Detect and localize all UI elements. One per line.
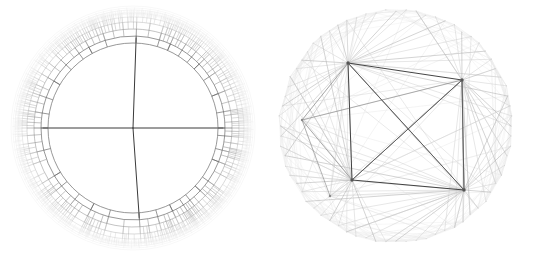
graph-node-hub[interactable] xyxy=(346,61,349,64)
graph-node-perimeter[interactable] xyxy=(491,59,492,60)
graph-node-perimeter[interactable] xyxy=(306,201,307,202)
graph-node-perimeter[interactable] xyxy=(307,51,308,52)
graph-node-perimeter[interactable] xyxy=(504,165,505,166)
graph-node-perimeter[interactable] xyxy=(285,155,286,156)
dendrogram-arc xyxy=(79,211,88,216)
graph-node-perimeter[interactable] xyxy=(490,192,491,193)
graph-node-perimeter[interactable] xyxy=(302,191,303,192)
dendrogram-arc xyxy=(200,46,206,51)
graph-node-perimeter[interactable] xyxy=(395,240,396,241)
graph-node-perimeter[interactable] xyxy=(495,68,496,69)
graph-node-perimeter[interactable] xyxy=(290,175,291,176)
graph-node-perimeter[interactable] xyxy=(509,105,510,106)
graph-node-secondary[interactable] xyxy=(329,195,331,197)
graph-node-perimeter[interactable] xyxy=(470,214,471,215)
graph-node-perimeter[interactable] xyxy=(296,183,297,184)
graph-node-perimeter[interactable] xyxy=(485,201,486,202)
graph-node-perimeter[interactable] xyxy=(507,96,508,97)
graph-node-perimeter[interactable] xyxy=(425,15,426,16)
graph-node-perimeter[interactable] xyxy=(320,36,321,37)
graph-node-perimeter[interactable] xyxy=(478,42,479,43)
dendrogram-spoke xyxy=(217,192,221,195)
graph-node-hub[interactable] xyxy=(462,188,465,191)
graph-node-perimeter[interactable] xyxy=(510,146,511,147)
graph-node-perimeter[interactable] xyxy=(285,166,286,167)
dendrogram-spoke xyxy=(92,38,95,44)
graph-node-perimeter[interactable] xyxy=(500,77,501,78)
graph-node-perimeter[interactable] xyxy=(485,51,486,52)
graph-node-perimeter[interactable] xyxy=(376,13,377,14)
dendrogram-arc xyxy=(32,71,33,73)
graph-node-perimeter[interactable] xyxy=(365,13,366,14)
graph-node-perimeter[interactable] xyxy=(454,227,455,228)
graph-node-perimeter[interactable] xyxy=(290,76,291,77)
dendrogram-spoke xyxy=(163,22,164,27)
graph-node-perimeter[interactable] xyxy=(462,221,463,222)
dendrogram-spoke xyxy=(26,97,31,98)
graph-node-perimeter[interactable] xyxy=(279,115,280,116)
graph-node-perimeter[interactable] xyxy=(506,85,507,86)
graph-node-perimeter[interactable] xyxy=(280,136,281,137)
dendrogram-spoke xyxy=(160,13,161,16)
dendrogram-spoke xyxy=(165,22,167,27)
dendrogram-spoke xyxy=(195,186,200,191)
graph-node-perimeter[interactable] xyxy=(416,240,417,241)
graph-node-secondary[interactable] xyxy=(301,119,303,121)
graph-node-perimeter[interactable] xyxy=(355,235,356,236)
graph-edge-faint xyxy=(339,226,386,242)
graph-node-perimeter[interactable] xyxy=(296,68,297,69)
graph-node-perimeter[interactable] xyxy=(461,32,462,33)
dendrogram-spoke xyxy=(242,148,246,149)
graph-node-perimeter[interactable] xyxy=(435,234,436,235)
graph-node-perimeter[interactable] xyxy=(510,125,511,126)
graph-node-perimeter[interactable] xyxy=(280,125,281,126)
graph-node-perimeter[interactable] xyxy=(510,135,511,136)
graph-node-perimeter[interactable] xyxy=(385,9,386,10)
graph-node-perimeter[interactable] xyxy=(337,25,338,26)
graph-node-perimeter[interactable] xyxy=(338,225,339,226)
graph-edge-hub xyxy=(348,63,462,80)
graph-node-perimeter[interactable] xyxy=(321,215,322,216)
graph-edge-mid xyxy=(462,69,495,80)
graph-node-perimeter[interactable] xyxy=(329,30,330,31)
dendrogram-spoke xyxy=(240,170,243,171)
dendrogram-arc xyxy=(64,40,65,41)
graph-node-perimeter[interactable] xyxy=(285,96,286,97)
graph-node-perimeter[interactable] xyxy=(329,220,330,221)
graph-node-perimeter[interactable] xyxy=(511,115,512,116)
graph-node-perimeter[interactable] xyxy=(375,241,376,242)
graph-node-perimeter[interactable] xyxy=(444,20,445,21)
graph-node-perimeter[interactable] xyxy=(366,237,367,238)
graph-node-perimeter[interactable] xyxy=(471,36,472,37)
graph-node-perimeter[interactable] xyxy=(346,20,347,21)
graph-node-perimeter[interactable] xyxy=(477,207,478,208)
graph-node-perimeter[interactable] xyxy=(385,241,386,242)
dendrogram-spoke xyxy=(95,16,96,19)
dendrogram-arc xyxy=(42,192,43,194)
graph-node-perimeter[interactable] xyxy=(282,105,283,106)
dendrogram-spoke xyxy=(48,78,54,82)
graph-node-perimeter[interactable] xyxy=(313,43,314,44)
graph-node-hub[interactable] xyxy=(460,78,463,81)
graph-node-perimeter[interactable] xyxy=(435,17,436,18)
graph-node-perimeter[interactable] xyxy=(416,11,417,12)
graph-node-perimeter[interactable] xyxy=(406,241,407,242)
graph-node-perimeter[interactable] xyxy=(406,10,407,11)
graph-node-perimeter[interactable] xyxy=(495,183,496,184)
dendrogram-spoke xyxy=(112,24,113,31)
graph-node-perimeter[interactable] xyxy=(506,155,507,156)
graph-node-perimeter[interactable] xyxy=(426,238,427,239)
graph-node-hub[interactable] xyxy=(350,178,353,181)
graph-node-perimeter[interactable] xyxy=(280,146,281,147)
graph-node-perimeter[interactable] xyxy=(501,175,502,176)
graph-node-perimeter[interactable] xyxy=(444,230,445,231)
dendrogram-spoke xyxy=(202,44,205,48)
graph-node-perimeter[interactable] xyxy=(301,60,302,61)
graph-node-perimeter[interactable] xyxy=(288,86,289,87)
graph-node-perimeter[interactable] xyxy=(395,11,396,12)
graph-node-perimeter[interactable] xyxy=(356,17,357,18)
graph-node-perimeter[interactable] xyxy=(313,207,314,208)
graph-node-perimeter[interactable] xyxy=(454,24,455,25)
graph-node-perimeter[interactable] xyxy=(346,231,347,232)
dendrogram-arc xyxy=(26,97,27,99)
